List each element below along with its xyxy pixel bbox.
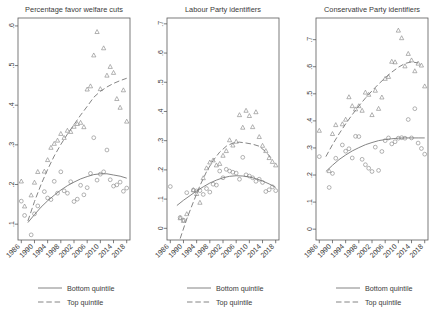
data-point-circle — [241, 155, 245, 159]
chart-panel-3: Conservative Party identifiers0.1.2.3.4.… — [298, 0, 447, 323]
data-point-circle — [413, 107, 417, 111]
data-point-triangle — [111, 70, 115, 74]
data-point-triangle — [423, 84, 427, 88]
data-point-circle — [36, 204, 40, 208]
data-point-triangle — [88, 84, 92, 88]
data-point-triangle — [241, 125, 245, 129]
fit-line-solid — [326, 138, 425, 172]
data-point-circle — [327, 186, 331, 190]
data-point-circle — [72, 200, 76, 204]
y-tick-label: .3 — [157, 138, 164, 144]
y-tick-label: .2 — [157, 167, 164, 173]
data-point-triangle — [125, 119, 129, 123]
legend: Bottom quintileTop quintile — [187, 284, 264, 307]
y-tick-label: .3 — [8, 142, 15, 148]
data-point-circle — [364, 163, 368, 167]
data-point-triangle — [370, 113, 374, 117]
data-point-circle — [340, 143, 344, 147]
data-point-triangle — [317, 128, 321, 132]
data-point-triangle — [115, 97, 119, 101]
data-point-circle — [185, 191, 189, 195]
x-axis: 198619901994199820022006201020142018 — [153, 240, 276, 260]
legend-label-top: Top quintile — [365, 298, 401, 307]
data-point-circle — [23, 214, 27, 218]
data-point-circle — [79, 183, 83, 187]
data-point-circle — [122, 189, 126, 193]
data-point-triangle — [360, 108, 364, 112]
data-point-circle — [218, 169, 222, 173]
plot-frame — [18, 18, 130, 240]
data-point-circle — [52, 179, 56, 183]
data-point-circle — [373, 145, 377, 149]
data-point-triangle — [82, 125, 86, 129]
data-point-triangle — [29, 193, 33, 197]
data-point-circle — [108, 178, 112, 182]
series-top-quintile — [19, 30, 129, 221]
legend: Bottom quintileTop quintile — [336, 284, 413, 307]
series-top-quintile — [178, 108, 278, 238]
y-axis: 0.1.2.3.4.5.6.7 — [306, 37, 316, 231]
y-tick-label: 0 — [306, 227, 313, 231]
data-point-triangle — [330, 132, 334, 136]
data-point-circle — [420, 147, 424, 151]
legend-label-top: Top quintile — [216, 298, 252, 307]
data-point-circle — [29, 233, 33, 237]
data-point-triangle — [344, 117, 348, 121]
data-point-triangle — [416, 61, 420, 65]
data-point-circle — [380, 150, 384, 154]
y-tick-label: 0 — [157, 226, 164, 230]
data-point-circle — [85, 186, 89, 190]
x-axis: 198619901994199820022006201020142018 — [4, 240, 127, 260]
data-point-circle — [360, 157, 364, 161]
data-point-triangle — [406, 51, 410, 55]
panel-title: Percentage favor welfare cuts — [25, 5, 123, 14]
data-point-circle — [317, 155, 321, 159]
data-point-triangle — [198, 200, 202, 204]
data-point-triangle — [257, 135, 261, 139]
x-axis: 198619901994199820022006201020142018 — [302, 240, 425, 260]
data-point-triangle — [260, 143, 264, 147]
legend-label-bottom: Bottom quintile — [67, 284, 115, 293]
figure-container: Percentage favor welfare cuts.1.2.3.4.5.… — [0, 0, 447, 323]
data-point-triangle — [92, 53, 96, 57]
data-point-triangle — [118, 105, 122, 109]
legend-label-bottom: Bottom quintile — [365, 284, 413, 293]
data-point-circle — [370, 170, 374, 174]
data-point-triangle — [22, 204, 26, 208]
y-tick-label: .5 — [157, 79, 164, 85]
data-point-circle — [393, 140, 397, 144]
data-point-triangle — [105, 73, 109, 77]
y-tick-label: .7 — [157, 21, 164, 27]
data-point-circle — [42, 190, 46, 194]
series-bottom-quintile — [317, 107, 426, 190]
plot-data — [317, 28, 427, 189]
data-point-circle — [416, 141, 420, 145]
data-point-circle — [66, 191, 70, 195]
data-point-circle — [205, 187, 209, 191]
data-point-circle — [347, 147, 351, 151]
y-tick-label: .2 — [8, 181, 15, 187]
data-point-triangle — [59, 131, 63, 135]
data-point-circle — [350, 156, 354, 160]
data-point-triangle — [350, 104, 354, 108]
data-point-triangle — [95, 30, 99, 34]
data-point-circle — [406, 118, 410, 122]
data-point-circle — [115, 183, 119, 187]
data-point-triangle — [108, 64, 112, 68]
data-point-circle — [377, 169, 381, 173]
y-tick-label: .1 — [8, 221, 15, 227]
y-tick-label: .6 — [8, 23, 15, 29]
legend: Bottom quintileTop quintile — [38, 284, 115, 307]
data-point-triangle — [221, 153, 225, 157]
data-point-triangle — [55, 138, 59, 142]
data-point-triangle — [121, 88, 125, 92]
data-point-triangle — [102, 46, 106, 50]
legend-label-top: Top quintile — [67, 298, 103, 307]
data-point-circle — [59, 170, 63, 174]
data-point-circle — [367, 166, 371, 170]
y-tick-label: .3 — [306, 145, 313, 151]
x-tick-label: 2018 — [407, 242, 425, 260]
fit-line-dashed — [180, 142, 272, 238]
y-tick-label: .1 — [306, 199, 313, 205]
data-point-circle — [274, 189, 278, 193]
